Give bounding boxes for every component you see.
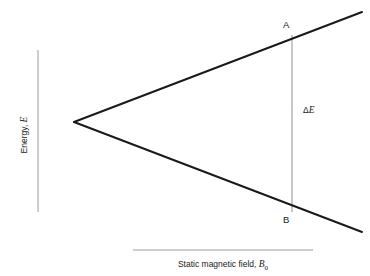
lower-energy-level-line bbox=[74, 122, 362, 232]
delta-energy-label: ΔE bbox=[303, 106, 315, 116]
x-axis-label-text: Static magnetic field, bbox=[178, 259, 259, 269]
delta-energy-variable: E bbox=[309, 105, 315, 115]
x-axis-label: Static magnetic field, B0 bbox=[178, 260, 268, 272]
energy-splitting-figure: A B ΔE Energy, E Static magnetic field, … bbox=[0, 0, 370, 276]
upper-energy-level-line bbox=[74, 12, 362, 122]
plot-area bbox=[0, 0, 370, 276]
point-label-a: A bbox=[283, 20, 289, 30]
y-axis-label-text: Energy, bbox=[19, 122, 29, 153]
y-axis-label-variable: E bbox=[19, 117, 29, 123]
point-label-b: B bbox=[283, 215, 289, 225]
y-axis-label: Energy, E bbox=[20, 117, 30, 154]
x-axis-label-subscript: 0 bbox=[265, 264, 269, 272]
